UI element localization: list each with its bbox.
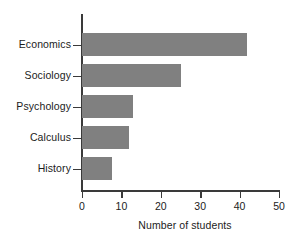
x-tick-label-0: 0 xyxy=(67,200,97,212)
y-tick-sociology xyxy=(73,76,81,77)
bar-history xyxy=(82,157,112,180)
y-tick-psychology xyxy=(73,107,81,108)
bar-calculus xyxy=(82,126,129,149)
x-tick-label-30: 30 xyxy=(185,200,215,212)
category-label-calculus: Calculus xyxy=(30,132,71,143)
x-axis-line xyxy=(81,190,280,192)
x-tick-label-20: 20 xyxy=(146,200,176,212)
category-label-history: History xyxy=(38,163,71,174)
x-tick-40 xyxy=(240,191,241,198)
x-tick-10 xyxy=(121,191,122,198)
x-axis-title: Number of students xyxy=(0,219,304,231)
x-tick-20 xyxy=(161,191,162,198)
bar-economics xyxy=(82,33,247,56)
x-tick-label-10: 10 xyxy=(106,200,136,212)
y-tick-history xyxy=(73,169,81,170)
x-tick-30 xyxy=(200,191,201,198)
category-label-sociology: Sociology xyxy=(25,70,71,81)
x-tick-label-50: 50 xyxy=(264,200,294,212)
x-tick-50 xyxy=(279,191,280,198)
x-tick-0 xyxy=(82,191,83,198)
category-label-psychology: Psychology xyxy=(16,101,71,112)
bar-sociology xyxy=(82,64,181,87)
x-tick-label-40: 40 xyxy=(225,200,255,212)
bar-psychology xyxy=(82,95,133,118)
x-axis-title-text: Number of students xyxy=(138,219,231,231)
y-tick-economics xyxy=(73,45,81,46)
y-tick-calculus xyxy=(73,138,81,139)
bar-chart: EconomicsSociologyPsychologyCalculusHist… xyxy=(0,0,304,240)
plot-area: EconomicsSociologyPsychologyCalculusHist… xyxy=(0,0,304,240)
category-label-economics: Economics xyxy=(19,39,71,50)
